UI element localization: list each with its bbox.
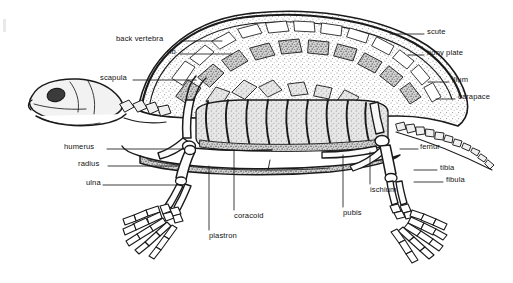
label-bony-plate: bony plate bbox=[427, 48, 463, 57]
label-tibia: tibia bbox=[440, 163, 454, 172]
label-coracoid: coracoid bbox=[234, 211, 264, 220]
hind-limb bbox=[380, 145, 447, 263]
anatomy-figure: back vertebra rib scapula scute bony pla… bbox=[0, 0, 513, 283]
label-scute: scute bbox=[427, 27, 446, 36]
label-ulna: ulna bbox=[86, 178, 101, 187]
label-scapula: scapula bbox=[100, 73, 127, 82]
label-ilium: ilium bbox=[452, 75, 468, 84]
label-plastron: plastron bbox=[209, 231, 237, 240]
label-femur: femur bbox=[420, 142, 440, 151]
skull bbox=[28, 79, 126, 126]
label-carapace: carapace bbox=[458, 92, 490, 101]
label-back-vertebra: back vertebra bbox=[116, 34, 163, 43]
label-ischium: ischium bbox=[370, 185, 396, 194]
label-fibula: fibula bbox=[446, 175, 465, 184]
label-humerus: humerus bbox=[64, 142, 94, 151]
label-radius: radius bbox=[78, 159, 99, 168]
label-rib: rib bbox=[167, 47, 176, 56]
label-pubis: pubis bbox=[343, 208, 362, 217]
